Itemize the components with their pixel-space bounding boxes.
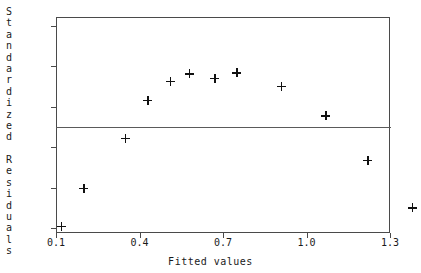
y-axis-title-char: r <box>6 74 12 85</box>
x-axis-tick-label: 1.0 <box>287 238 327 248</box>
data-point <box>408 203 417 212</box>
x-axis-tick-label: 1.3 <box>370 238 410 248</box>
data-point <box>232 68 241 77</box>
y-axis-title-char: t <box>6 17 12 28</box>
y-axis-tick <box>51 26 56 27</box>
y-axis-tick <box>51 107 56 108</box>
y-axis-title-char: s <box>6 245 12 256</box>
y-axis-title-char: i <box>6 97 12 108</box>
residual-plot-figure: StandardizedResiduals 2.01.20.4-0.4-1.2-… <box>0 0 421 273</box>
y-axis-tick <box>51 147 56 148</box>
y-axis-tick <box>51 228 56 229</box>
y-axis-title-char: d <box>6 86 12 97</box>
data-point <box>79 184 88 193</box>
data-point <box>185 69 194 78</box>
data-point <box>57 222 66 231</box>
y-axis-title-char: d <box>6 52 12 63</box>
data-point <box>363 156 372 165</box>
y-axis-title-char: z <box>6 109 12 120</box>
data-point <box>321 111 330 120</box>
y-axis-title-char: R <box>6 154 12 165</box>
y-axis-title-char: u <box>6 211 12 222</box>
y-axis-tick <box>51 188 56 189</box>
y-axis-title-char: l <box>6 234 12 245</box>
data-point <box>277 82 286 91</box>
y-axis-tick <box>51 66 56 67</box>
y-axis-title-char: d <box>6 200 12 211</box>
y-axis-title-char: e <box>6 165 12 176</box>
y-axis-title-char: a <box>6 29 12 40</box>
data-point <box>121 134 130 143</box>
y-axis-title-char: a <box>6 222 12 233</box>
data-point <box>143 96 152 105</box>
y-axis-title: StandardizedResiduals <box>0 6 18 257</box>
y-axis-title-char: n <box>6 40 12 51</box>
y-axis-title-char: e <box>6 120 12 131</box>
x-axis-tick-label: 0.1 <box>36 238 76 248</box>
data-point <box>166 77 175 86</box>
x-axis-title: Fitted values <box>0 256 421 267</box>
plot-frame <box>56 17 390 233</box>
y-axis-title-char: d <box>6 131 12 142</box>
data-point <box>210 74 219 83</box>
y-axis-title-char: s <box>6 177 12 188</box>
y-axis-title-char: S <box>6 6 12 17</box>
y-axis-title-char: a <box>6 63 12 74</box>
zero-reference-line <box>56 127 391 128</box>
x-axis-tick-label: 0.7 <box>203 238 243 248</box>
x-axis-tick-label: 0.4 <box>120 238 160 248</box>
y-axis-title-char: i <box>6 188 12 199</box>
